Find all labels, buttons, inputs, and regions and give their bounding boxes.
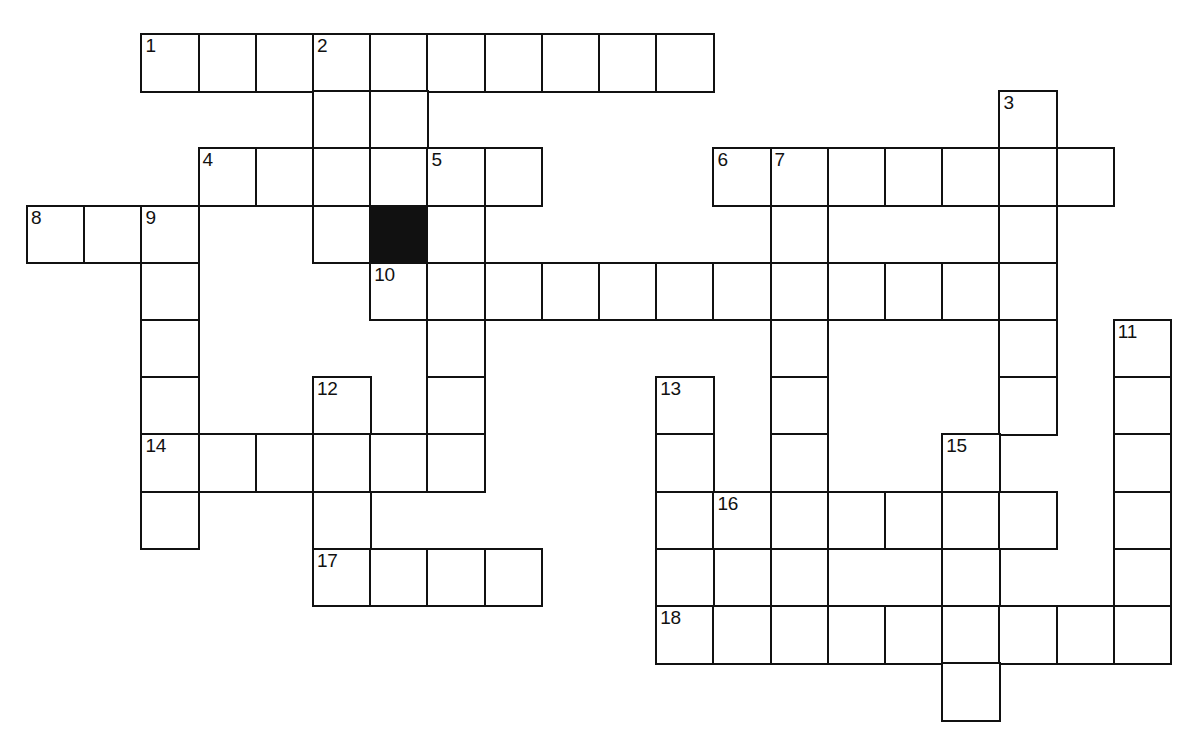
crossword-cell[interactable] <box>655 433 715 493</box>
crossword-cell[interactable] <box>770 548 830 608</box>
crossword-cell[interactable] <box>884 262 944 322</box>
crossword-cell[interactable] <box>541 33 601 93</box>
crossword-cell[interactable] <box>369 147 429 207</box>
crossword-cell[interactable] <box>770 262 830 322</box>
cell-number-9: 9 <box>145 207 155 228</box>
crossword-cell[interactable] <box>655 33 715 93</box>
crossword-cell[interactable] <box>541 262 601 322</box>
crossword-cell[interactable] <box>484 147 544 207</box>
crossword-cell[interactable] <box>1113 376 1173 436</box>
crossword-cell[interactable] <box>140 262 200 322</box>
crossword-cell-3[interactable]: 3 <box>998 90 1058 150</box>
crossword-cell[interactable] <box>827 605 887 665</box>
crossword-cell[interactable] <box>941 548 1001 608</box>
crossword-cell[interactable] <box>770 205 830 265</box>
crossword-cell[interactable] <box>655 491 715 551</box>
crossword-cell[interactable] <box>998 605 1058 665</box>
crossword-cell-8[interactable]: 8 <box>26 205 86 265</box>
crossword-cell-18[interactable]: 18 <box>655 605 715 665</box>
crossword-cell[interactable] <box>827 491 887 551</box>
crossword-cell[interactable] <box>140 491 200 551</box>
crossword-cell[interactable] <box>998 376 1058 436</box>
cell-number-7: 7 <box>775 149 785 170</box>
crossword-cell[interactable] <box>140 376 200 436</box>
crossword-cell[interactable] <box>426 205 486 265</box>
crossword-cell-5[interactable]: 5 <box>426 147 486 207</box>
crossword-cell[interactable] <box>1056 605 1116 665</box>
crossword-cell[interactable] <box>312 205 372 265</box>
crossword-cell[interactable] <box>312 491 372 551</box>
crossword-cell[interactable] <box>770 433 830 493</box>
crossword-cell[interactable] <box>312 90 372 150</box>
crossword-cell[interactable] <box>998 262 1058 322</box>
crossword-cell[interactable] <box>255 433 315 493</box>
crossword-cell[interactable] <box>941 262 1001 322</box>
crossword-cell[interactable] <box>770 491 830 551</box>
crossword-cell[interactable] <box>426 319 486 379</box>
crossword-cell-15[interactable]: 15 <box>941 433 1001 493</box>
crossword-cell[interactable] <box>1113 433 1173 493</box>
crossword-cell[interactable] <box>770 605 830 665</box>
crossword-cell[interactable] <box>941 491 1001 551</box>
crossword-cell[interactable] <box>312 147 372 207</box>
crossword-cell[interactable] <box>827 262 887 322</box>
crossword-cell[interactable] <box>426 376 486 436</box>
crossword-cell-17[interactable]: 17 <box>312 548 372 608</box>
crossword-cell-6[interactable]: 6 <box>712 147 772 207</box>
crossword-cell[interactable] <box>1113 491 1173 551</box>
crossword-cell[interactable] <box>369 33 429 93</box>
crossword-cell-14[interactable]: 14 <box>140 433 200 493</box>
crossword-cell[interactable] <box>941 147 1001 207</box>
crossword-cell[interactable] <box>1113 605 1173 665</box>
cell-number-3: 3 <box>1003 92 1013 113</box>
crossword-cell[interactable] <box>941 605 1001 665</box>
crossword-cell[interactable] <box>369 433 429 493</box>
crossword-cell-1[interactable]: 1 <box>140 33 200 93</box>
crossword-cell[interactable] <box>884 147 944 207</box>
crossword-cell[interactable] <box>712 605 772 665</box>
crossword-cell-7[interactable]: 7 <box>770 147 830 207</box>
crossword-cell[interactable] <box>1056 147 1116 207</box>
crossword-cell[interactable] <box>484 33 544 93</box>
crossword-cell[interactable] <box>655 262 715 322</box>
crossword-cell-13[interactable]: 13 <box>655 376 715 436</box>
crossword-cell[interactable] <box>426 433 486 493</box>
crossword-cell[interactable] <box>598 262 658 322</box>
crossword-cell[interactable] <box>827 147 887 207</box>
crossword-cell[interactable] <box>198 33 258 93</box>
crossword-cell[interactable] <box>198 433 258 493</box>
crossword-cell[interactable] <box>255 33 315 93</box>
crossword-cell[interactable] <box>941 662 1001 722</box>
crossword-cell-16[interactable]: 16 <box>712 491 772 551</box>
crossword-cell[interactable] <box>140 319 200 379</box>
crossword-cell[interactable] <box>312 433 372 493</box>
crossword-cell[interactable] <box>426 33 486 93</box>
crossword-cell[interactable] <box>712 262 772 322</box>
crossword-cell[interactable] <box>484 262 544 322</box>
crossword-cell[interactable] <box>369 548 429 608</box>
crossword-cell[interactable] <box>426 548 486 608</box>
crossword-cell[interactable] <box>770 319 830 379</box>
crossword-cell[interactable] <box>998 491 1058 551</box>
crossword-cell[interactable] <box>884 491 944 551</box>
crossword-cell[interactable] <box>369 90 429 150</box>
crossword-cell[interactable] <box>426 262 486 322</box>
crossword-cell[interactable] <box>484 548 544 608</box>
crossword-cell-12[interactable]: 12 <box>312 376 372 436</box>
crossword-cell-10[interactable]: 10 <box>369 262 429 322</box>
crossword-cell[interactable] <box>1113 548 1173 608</box>
crossword-cell[interactable] <box>255 147 315 207</box>
crossword-cell[interactable] <box>655 548 715 608</box>
crossword-cell-2[interactable]: 2 <box>312 33 372 93</box>
crossword-cell-4[interactable]: 4 <box>198 147 258 207</box>
cell-number-2: 2 <box>317 35 327 56</box>
crossword-cell[interactable] <box>770 376 830 436</box>
crossword-cell-9[interactable]: 9 <box>140 205 200 265</box>
crossword-cell[interactable] <box>998 147 1058 207</box>
crossword-cell[interactable] <box>998 205 1058 265</box>
crossword-cell[interactable] <box>598 33 658 93</box>
crossword-cell[interactable] <box>83 205 143 265</box>
crossword-cell-11[interactable]: 11 <box>1113 319 1173 379</box>
crossword-cell[interactable] <box>884 605 944 665</box>
crossword-cell[interactable] <box>998 319 1058 379</box>
